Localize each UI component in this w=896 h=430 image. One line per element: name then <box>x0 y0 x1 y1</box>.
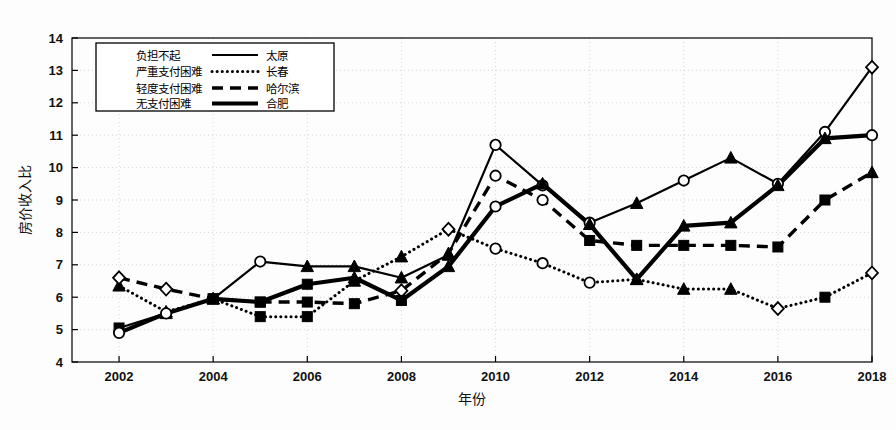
legend-label-负担不起: 负担不起 <box>136 49 181 62</box>
marker-square-filled-长春-2006 <box>302 312 312 322</box>
x-tick-label: 2002 <box>105 369 134 384</box>
x-tick-label: 2006 <box>293 369 322 384</box>
marker-square-filled-哈尔滨-2013 <box>632 240 642 250</box>
marker-circle-open-太原-2005 <box>255 256 265 266</box>
x-tick-label: 2004 <box>199 369 229 384</box>
marker-circle-open-长春-2011 <box>537 258 547 268</box>
y-tick-label: 11 <box>49 128 63 143</box>
y-tick-label: 10 <box>49 160 63 175</box>
legend-box <box>96 43 334 111</box>
marker-circle-open-合肥-2002 <box>114 328 124 338</box>
x-tick-label: 2016 <box>763 369 792 384</box>
x-tick-labels: 200220042006200820102012201420162018 <box>105 369 887 384</box>
marker-square-filled-合肥-2008 <box>396 295 406 305</box>
marker-circle-open-合肥-2010 <box>490 201 500 211</box>
marker-circle-open-太原-2014 <box>679 175 689 185</box>
marker-square-filled-哈尔滨-2015 <box>726 240 736 250</box>
y-axis-label: 房价收入比 <box>17 165 33 235</box>
marker-circle-open-长春-2012 <box>584 277 594 287</box>
x-tick-label: 2014 <box>669 369 699 384</box>
marker-square-filled-合肥-2004 <box>208 294 218 304</box>
marker-circle-open-合肥-2018 <box>867 130 877 140</box>
y-tick-label: 7 <box>56 257 63 272</box>
marker-square-filled-长春-2005 <box>255 312 265 322</box>
chart-legend: 负担不起严重支付困难轻度支付困难无支付困难太原长春哈尔滨合肥 <box>96 43 334 111</box>
y-tick-label: 5 <box>56 322 63 337</box>
marker-circle-open-太原-2010 <box>490 140 500 150</box>
y-tick-label: 4 <box>56 355 64 370</box>
x-tick-label: 2008 <box>387 369 416 384</box>
y-tick-label: 12 <box>49 95 63 110</box>
chart-page: 4567891011121314 20022004200620082010201… <box>0 0 896 430</box>
marker-square-filled-合肥-2005 <box>255 297 265 307</box>
legend-label-严重支付困难: 严重支付困难 <box>136 65 202 78</box>
legend-label-轻度支付困难: 轻度支付困难 <box>136 82 202 95</box>
legend-label-无支付困难: 无支付困难 <box>136 98 191 110</box>
marker-square-filled-哈尔滨-2012 <box>585 236 595 246</box>
legend-label-太原: 太原 <box>266 50 288 62</box>
x-tick-label: 2012 <box>575 369 604 384</box>
legend-label-哈尔滨: 哈尔滨 <box>266 82 300 95</box>
marker-square-filled-合肥-2006 <box>302 279 312 289</box>
marker-circle-open-合肥-2003 <box>161 308 171 318</box>
x-tick-label: 2018 <box>858 369 887 384</box>
legend-label-长春: 长春 <box>266 66 289 78</box>
x-axis-label: 年份 <box>458 391 486 407</box>
y-tick-label: 14 <box>49 31 64 46</box>
house-price-income-ratio-line-chart: 4567891011121314 20022004200620082010201… <box>0 0 896 430</box>
marker-square-filled-哈尔滨-2017 <box>820 195 830 205</box>
marker-circle-open-哈尔滨-2010 <box>490 171 500 181</box>
y-tick-label: 6 <box>56 290 63 305</box>
y-tick-label: 9 <box>56 193 63 208</box>
marker-square-filled-哈尔滨-2016 <box>773 242 783 252</box>
marker-square-filled-哈尔滨-2006 <box>302 297 312 307</box>
marker-square-filled-哈尔滨-2007 <box>349 299 359 309</box>
marker-circle-open-长春-2010 <box>490 243 500 253</box>
x-tick-label: 2010 <box>481 369 510 384</box>
y-tick-label: 13 <box>49 63 63 78</box>
y-tick-label: 8 <box>56 225 63 240</box>
marker-square-filled-哈尔滨-2014 <box>679 240 689 250</box>
legend-label-合肥: 合肥 <box>266 97 289 110</box>
marker-circle-open-哈尔滨-2011 <box>537 195 547 205</box>
marker-square-filled-长春-2017 <box>820 292 830 302</box>
